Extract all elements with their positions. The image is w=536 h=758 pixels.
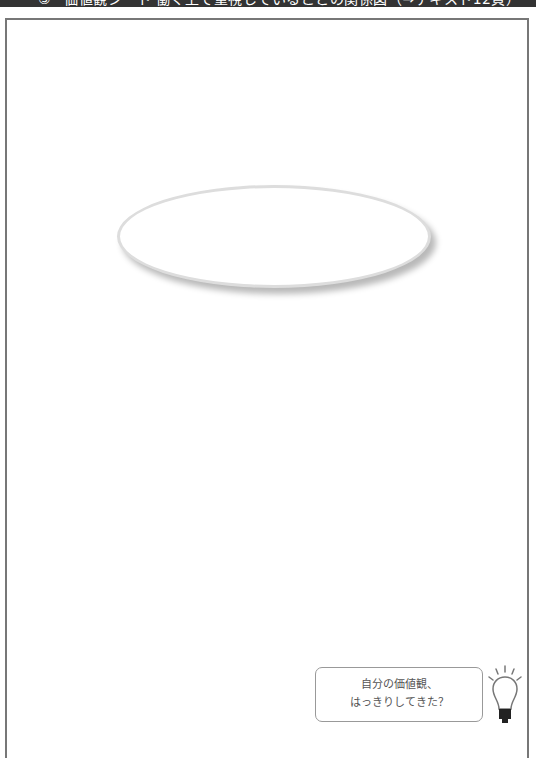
callout-line-1: 自分の価値観、 [316,676,482,694]
section-header: ③ 価値観シート 働く上で重視していることの関係図（→テキスト12頁） [0,0,536,7]
section-number: ③ [38,0,51,7]
callout-line-2: はっきりしてきた？ [316,694,482,712]
section-title: 価値観シート 働く上で重視していることの関係図（→テキスト12頁） [64,0,521,7]
worksheet-frame [5,18,529,758]
lightbulb-icon [485,665,525,727]
central-value-ellipse [117,185,431,288]
reflection-callout: 自分の価値観、 はっきりしてきた？ [315,667,483,722]
